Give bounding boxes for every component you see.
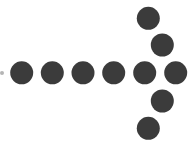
arrow-shaft-dot [41,61,64,84]
arrow-head-upper-dot [137,7,160,30]
arrow-head-lower-dot [137,117,160,140]
faint-dot [0,71,4,75]
arrow-right-icon [0,7,187,140]
arrow-shaft-dot [72,61,95,84]
arrow-head-upper-dot [151,34,174,57]
arrow-shaft-dot [164,61,187,84]
arrow-shaft-dot [10,61,33,84]
arrow-shaft-dot [133,61,156,84]
dotted-arrow-graphic [0,0,195,153]
arrow-shaft-dot [102,61,125,84]
arrow-head-lower-dot [151,90,174,113]
